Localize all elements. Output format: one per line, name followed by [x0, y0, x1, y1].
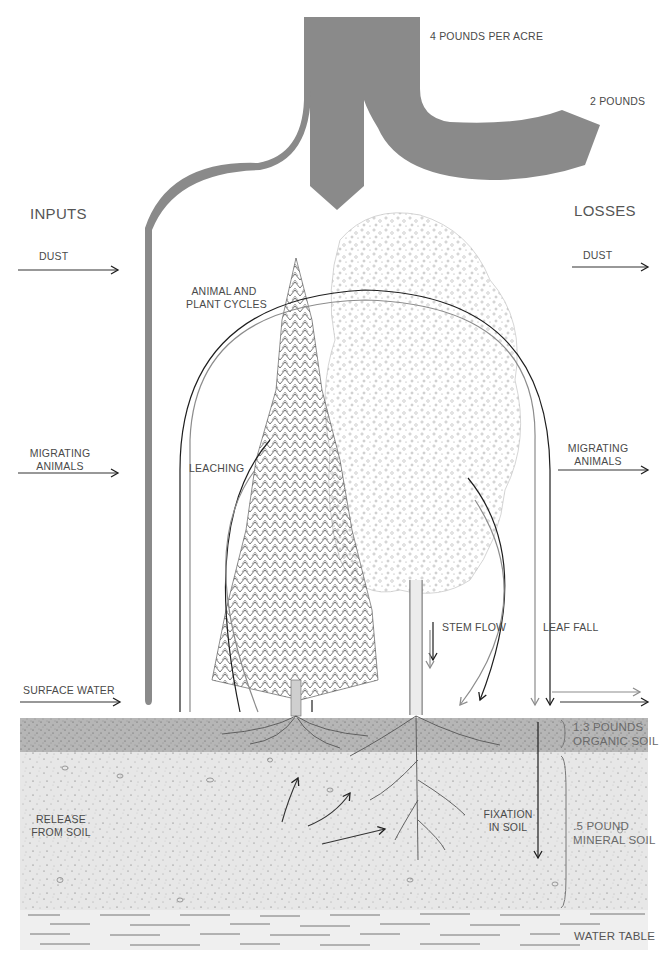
release-line1: RELEASE — [30, 813, 92, 826]
inputs-header: INPUTS — [30, 207, 87, 220]
loss-dust-label: DUST — [583, 249, 612, 262]
organic-soil-name: ORGANIC SOIL — [573, 734, 658, 748]
fixation-in-soil-label: FIXATION IN SOIL — [483, 808, 533, 834]
water-table-label: WATER TABLE — [574, 929, 655, 943]
top-flow-label: 4 POUNDS PER ACRE — [430, 30, 543, 43]
fixation-line2: IN SOIL — [483, 821, 533, 834]
release-from-soil-label: RELEASE FROM SOIL — [30, 813, 92, 839]
soil-profile — [20, 718, 648, 950]
mineral-soil-label: .5 POUND MINERAL SOIL — [573, 819, 656, 847]
diagram-artwork — [0, 0, 670, 968]
release-line2: FROM SOIL — [30, 826, 92, 839]
fixation-line1: FIXATION — [483, 808, 533, 821]
loss-migrating-line2: ANIMALS — [566, 455, 630, 468]
animal-plant-line2: PLANT CYCLES — [186, 298, 262, 311]
organic-soil-label: 1.3 POUNDS ORGANIC SOIL — [573, 720, 658, 748]
loss-migrating-line1: MIGRATING — [566, 442, 630, 455]
input-surface-water-label: SURFACE WATER — [23, 684, 115, 697]
mineral-soil-name: MINERAL SOIL — [573, 833, 656, 847]
loss-migrating-animals-label: MIGRATING ANIMALS — [566, 442, 630, 468]
leaching-label: LEACHING — [189, 462, 244, 475]
input-migrating-animals-label: MIGRATING ANIMALS — [28, 447, 92, 473]
input-dust-label: DUST — [39, 250, 68, 263]
loss-arrows — [552, 267, 648, 702]
mineral-soil-amount: .5 POUND — [573, 819, 656, 833]
input-migrating-line1: MIGRATING — [28, 447, 92, 460]
animal-plant-cycles-label: ANIMAL AND PLANT CYCLES — [186, 285, 262, 311]
right-flow-label: 2 POUNDS — [590, 95, 645, 108]
input-migrating-line2: ANIMALS — [28, 460, 92, 473]
stem-flow-label: STEM FLOW — [442, 621, 506, 634]
losses-header: LOSSES — [574, 204, 636, 217]
nutrient-cycle-diagram: 4 POUNDS PER ACRE 2 POUNDS INPUTS LOSSES… — [0, 0, 670, 968]
organic-soil-amount: 1.3 POUNDS — [573, 720, 658, 734]
animal-plant-line1: ANIMAL AND — [186, 285, 262, 298]
leaf-fall-label: LEAF FALL — [543, 621, 599, 634]
